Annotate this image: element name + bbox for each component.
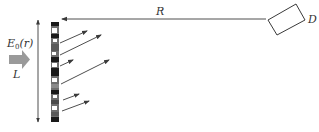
scattered-ray-3 [60, 60, 73, 66]
field-label-main: E [7, 37, 15, 50]
field-label: E0(r) [7, 38, 33, 51]
scattered-rays [60, 31, 109, 111]
detector-shape [268, 4, 305, 35]
scattered-ray-1 [60, 31, 87, 43]
detector-label: D [308, 14, 317, 25]
scattered-ray-2 [60, 35, 101, 55]
field-label-arg: (r) [20, 37, 34, 50]
incident-field-arrow [9, 50, 30, 69]
length-label: L [13, 69, 20, 80]
scattered-ray-5 [63, 94, 79, 100]
aperture-strip [51, 22, 59, 122]
scattered-ray-6 [62, 101, 89, 111]
distance-label: R [156, 6, 164, 17]
scattered-ray-4 [61, 60, 109, 84]
diagram-canvas [0, 0, 319, 132]
